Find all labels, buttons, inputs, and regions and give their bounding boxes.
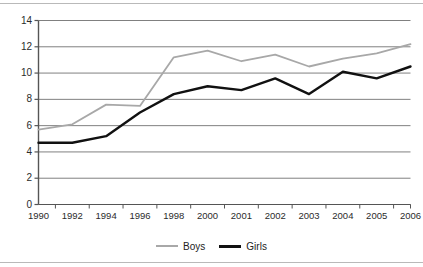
- x-axis-tick-label: 1990: [28, 210, 49, 221]
- x-axis-tick-labels: 1990199219941996199820002001200220032004…: [0, 206, 423, 228]
- y-axis-tick-label: 4: [6, 147, 32, 157]
- series-line-boys: [39, 44, 411, 129]
- legend-entry-girls[interactable]: Girls: [219, 241, 267, 252]
- x-axis-tick-label: 2003: [298, 210, 319, 221]
- chart-legend: BoysGirls: [0, 236, 423, 256]
- legend-label: Girls: [246, 241, 267, 252]
- x-axis-tick-label: 1992: [62, 210, 83, 221]
- plot-area: [0, 0, 423, 232]
- series-line-girls: [39, 67, 411, 143]
- y-axis-tick-label: 6: [6, 121, 32, 131]
- x-axis-tick-label: 2006: [400, 210, 421, 221]
- y-axis-tick-label: 12: [6, 42, 32, 52]
- x-axis-tick-label: 2004: [332, 210, 353, 221]
- x-axis-tick-label: 1998: [163, 210, 184, 221]
- y-axis-tick-label: 10: [6, 68, 32, 78]
- y-axis-tick-label: 8: [6, 94, 32, 104]
- x-axis-tick-label: 2005: [366, 210, 387, 221]
- x-axis-tick-label: 1994: [96, 210, 117, 221]
- legend-swatch-boys-icon: [156, 245, 178, 247]
- legend-entry-boys[interactable]: Boys: [156, 241, 205, 252]
- legend-label: Boys: [183, 241, 205, 252]
- x-axis-tick-label: 1996: [129, 210, 150, 221]
- x-axis-tick-label: 2002: [265, 210, 286, 221]
- legend-swatch-girls-icon: [219, 245, 241, 248]
- x-axis-tick-label: 2000: [197, 210, 218, 221]
- y-axis-tick-label: 2: [6, 173, 32, 183]
- figure-bottom-border: [0, 262, 423, 263]
- x-axis-tick-label: 2001: [231, 210, 252, 221]
- y-axis-tick-labels: 14121086420: [4, 0, 32, 232]
- line-chart-figure: 14121086420 1990199219941996199820002001…: [0, 0, 423, 267]
- plot-svg: [0, 0, 423, 232]
- y-axis-tick-label: 14: [6, 16, 32, 26]
